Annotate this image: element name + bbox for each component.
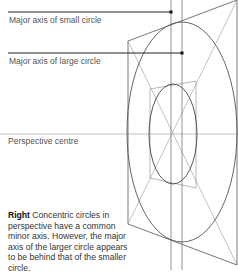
outer-square	[128, 0, 237, 265]
major-axes	[171, 0, 182, 270]
large-axis-label: Major axis of large circle	[9, 56, 101, 66]
small-axis-label: Major axis of small circle	[9, 15, 102, 25]
caption-lead: Right	[8, 210, 30, 220]
perspective-centre-label: Perspective centre	[8, 136, 78, 146]
caption: Right Concentric circles in perspective …	[8, 210, 130, 274]
